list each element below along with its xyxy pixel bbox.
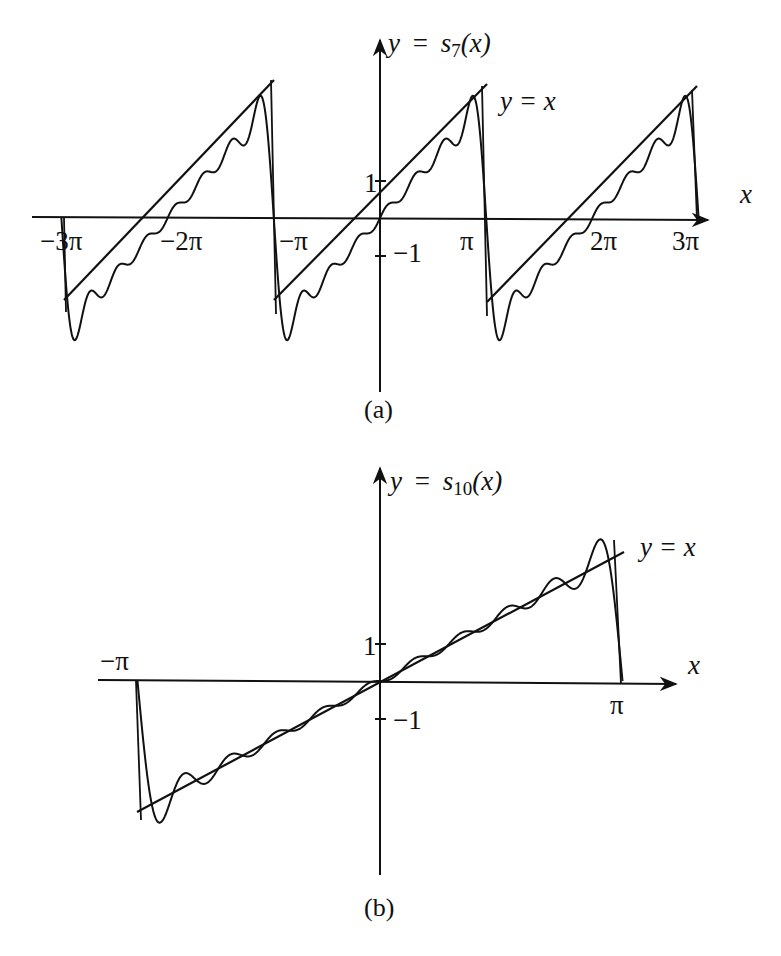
reference-label-a: y = x — [497, 86, 556, 116]
tick-label-m2pi: −2π — [160, 226, 203, 256]
reference-label-b: y = x — [637, 532, 696, 562]
x-axis-label-b: x — [687, 650, 700, 680]
figure-canvas: y = s7(x) y = x x −3π −2π −π π 2π 3π 1 −… — [0, 0, 781, 956]
tick-label-mpi: −π — [279, 226, 308, 256]
panel-a: y = s7(x) y = x x −3π −2π −π π 2π 3π 1 −… — [32, 28, 752, 392]
tick-label-pi: π — [460, 226, 474, 256]
y-tick-label-1-a: 1 — [364, 168, 378, 198]
x-axis-a — [32, 217, 708, 220]
y-tick-label-minus1-b: −1 — [393, 705, 422, 735]
y-tick-label-minus1-a: −1 — [393, 238, 422, 268]
tick-label-m3pi: −3π — [40, 226, 83, 256]
y-tick-label-1-b: 1 — [363, 631, 377, 661]
panel-b: y = s10(x) y = x x −π π 1 −1 — [98, 466, 700, 875]
tick-label-pi-b: π — [610, 690, 624, 720]
caption-a: (a) — [364, 395, 393, 425]
tick-label-3pi: 3π — [672, 226, 700, 256]
curve-label-a: y = s7(x) — [385, 28, 491, 61]
tick-label-mpi-b: −π — [100, 646, 129, 676]
x-axis-label-a: x — [739, 179, 752, 209]
caption-b: (b) — [364, 893, 394, 923]
tick-label-2pi: 2π — [590, 226, 618, 256]
curve-label-b: y = s10(x) — [387, 466, 502, 499]
